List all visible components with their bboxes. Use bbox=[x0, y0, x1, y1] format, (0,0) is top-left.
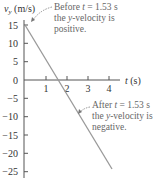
annotation-before-leader bbox=[33, 7, 52, 20]
svg-text:−15: −15 bbox=[2, 130, 18, 141]
svg-text:After t = 1.53 s: After t = 1.53 s bbox=[92, 100, 150, 110]
svg-text:−5: −5 bbox=[7, 93, 18, 104]
svg-text:0: 0 bbox=[13, 75, 18, 86]
svg-text:1: 1 bbox=[44, 83, 49, 94]
x-tick-labels: 1 2 3 4 bbox=[44, 83, 112, 94]
svg-text:10: 10 bbox=[8, 38, 18, 49]
y-axis-label: vy (m/s) bbox=[4, 3, 35, 16]
x-axis-label: t (s) bbox=[125, 75, 141, 87]
svg-text:the y-velocity is: the y-velocity is bbox=[92, 111, 153, 121]
svg-text:positive.: positive. bbox=[54, 24, 86, 34]
svg-text:3: 3 bbox=[86, 83, 91, 94]
y-tick-labels: 15 10 5 0 −5 −10 −15 −20 −25 bbox=[2, 20, 18, 178]
svg-text:Before t = 1.53 s: Before t = 1.53 s bbox=[54, 2, 118, 12]
annotation-after: After t = 1.53 s the y-velocity is negat… bbox=[92, 100, 153, 132]
svg-text:15: 15 bbox=[8, 20, 18, 31]
velocity-line bbox=[25, 25, 112, 169]
svg-text:−10: −10 bbox=[2, 111, 18, 122]
annotation-after-leader bbox=[80, 107, 90, 112]
svg-text:5: 5 bbox=[13, 56, 18, 67]
arrow-head-icon bbox=[31, 17, 35, 22]
svg-text:−25: −25 bbox=[2, 166, 18, 177]
annotation-before: Before t = 1.53 s the y-velocity is posi… bbox=[54, 2, 118, 34]
svg-text:the y-velocity is: the y-velocity is bbox=[54, 13, 115, 23]
svg-text:−20: −20 bbox=[2, 148, 18, 159]
arrow-head-icon bbox=[78, 109, 82, 114]
velocity-time-chart: vy (m/s) 15 10 5 0 −5 −10 −15 −20 −25 1 … bbox=[0, 0, 163, 180]
svg-text:4: 4 bbox=[107, 83, 112, 94]
y-ticks bbox=[24, 25, 28, 172]
svg-text:negative.: negative. bbox=[92, 122, 127, 132]
